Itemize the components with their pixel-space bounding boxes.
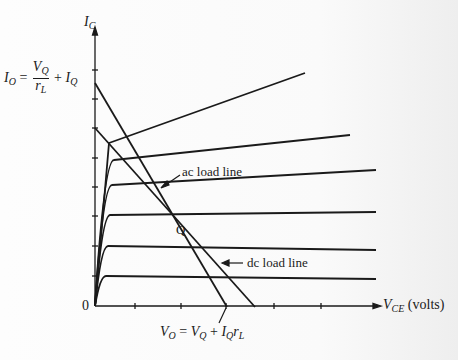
ic-curve-3 (95, 212, 376, 306)
q-point-label: Q (176, 222, 185, 238)
origin-label: 0 (82, 298, 89, 314)
x-axis-arrow (373, 304, 381, 309)
ic-curve-1 (95, 276, 376, 306)
ac-load-line (95, 83, 227, 307)
x-intercept-label: VO = VQ + IQrL (160, 324, 244, 341)
x-axis-label: V_CEVCE (volts) (383, 297, 444, 314)
dc-load-line-label: dc load line (247, 255, 308, 271)
ic-curve-5 (95, 135, 350, 306)
x-intercept-pointer (219, 308, 226, 323)
y-intercept-label: IO = VQrL + IQ (4, 60, 77, 97)
ac-load-line-label: ac load line (182, 164, 242, 180)
ic-curve-6 (95, 73, 305, 306)
dc-load-line (95, 128, 255, 307)
x-axis-unit: (volts) (408, 297, 445, 312)
y-axis-label: I_CIC (84, 14, 95, 31)
dc-load-line-pointer-head (222, 260, 229, 266)
